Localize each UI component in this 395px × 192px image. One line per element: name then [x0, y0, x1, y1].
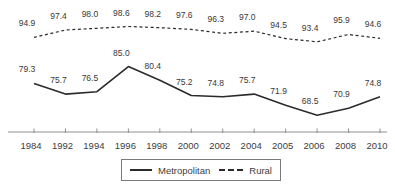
- x-axis-tick-label: 2000: [178, 140, 199, 151]
- x-axis-tick-label: 2004: [241, 140, 262, 151]
- data-label-metropolitan: 76.5: [82, 73, 99, 83]
- x-axis-tick-label: 1992: [52, 140, 73, 151]
- data-label-metropolitan: 74.8: [207, 78, 224, 88]
- data-label-metropolitan: 75.2: [176, 77, 193, 87]
- data-label-rural: 97.6: [176, 10, 193, 20]
- data-label-rural: 95.9: [333, 15, 350, 25]
- data-label-rural: 97.0: [239, 12, 256, 22]
- data-label-rural: 97.4: [50, 11, 67, 21]
- data-label-metropolitan: 70.9: [333, 89, 350, 99]
- x-axis-tick-label: 2002: [209, 140, 230, 151]
- data-label-metropolitan: 80.4: [145, 61, 162, 71]
- x-axis-tick-label: 2008: [335, 140, 356, 151]
- data-label-metropolitan: 85.0: [113, 48, 130, 58]
- data-label-metropolitan: 79.3: [19, 64, 36, 74]
- enrollment-line-chart: 1984199219941996199820002002200420052006…: [0, 0, 395, 192]
- x-axis-tick-label: 2005: [272, 140, 293, 151]
- x-axis-tick-label: 1984: [20, 140, 41, 151]
- series-line-rural: [34, 27, 380, 42]
- legend-label-metropolitan: Metropolitan: [158, 165, 210, 176]
- data-label-rural: 96.3: [207, 14, 224, 24]
- data-label-rural: 94.5: [270, 20, 287, 30]
- x-axis-tick-label: 1994: [83, 140, 104, 151]
- data-label-metropolitan: 75.7: [50, 75, 67, 85]
- legend-item-metropolitan: Metropolitan: [130, 165, 210, 176]
- x-axis-tick-label: 1996: [115, 140, 136, 151]
- data-label-metropolitan: 68.5: [302, 96, 319, 106]
- legend-label-rural: Rural: [249, 165, 272, 176]
- legend-item-rural: Rural: [219, 165, 272, 176]
- data-label-rural: 94.9: [19, 18, 36, 28]
- data-label-rural: 98.6: [113, 8, 130, 18]
- data-label-rural: 94.6: [365, 19, 382, 29]
- x-axis-tick-label: 1998: [146, 140, 167, 151]
- dashed-line-sample-icon: [219, 169, 243, 171]
- solid-line-sample-icon: [130, 169, 152, 171]
- chart-legend: Metropolitan Rural: [121, 159, 281, 181]
- data-label-metropolitan: 75.7: [239, 75, 256, 85]
- x-axis-tick-label: 2010: [366, 140, 387, 151]
- x-axis-tick-label: 2006: [304, 140, 325, 151]
- data-label-metropolitan: 71.9: [270, 86, 287, 96]
- data-label-rural: 93.4: [302, 23, 319, 33]
- data-label-rural: 98.0: [82, 9, 99, 19]
- data-label-metropolitan: 74.8: [365, 78, 382, 88]
- data-label-rural: 98.2: [145, 9, 162, 19]
